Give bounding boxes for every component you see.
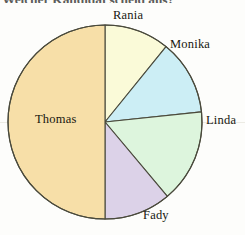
pie-label-linda: Linda [206,113,236,128]
pie-chart-figure: Welcher Kandidat scheid aus? Rania Monik… [0,0,245,235]
pie-label-monika: Monika [170,37,210,52]
pie-label-rania: Rania [113,8,143,23]
pie-label-thomas: Thomas [35,112,76,127]
pie-label-fady: Fady [143,208,169,223]
